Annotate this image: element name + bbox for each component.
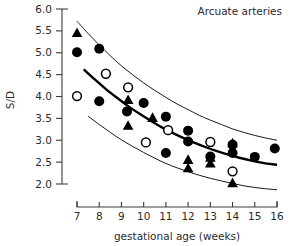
data-point-filled-circle: [94, 96, 104, 106]
data-point-filled-triangle: [147, 112, 158, 122]
data-point-filled-triangle: [183, 154, 194, 164]
data-point-filled-circle: [161, 112, 171, 122]
x-axis-group: 78910111213141516 gestational age (weeks…: [74, 201, 284, 242]
y-tick-label: 5.5: [35, 24, 52, 36]
data-point-filled-circle: [250, 152, 260, 162]
data-point-filled-circle: [270, 144, 280, 154]
x-tick-label: 14: [226, 210, 240, 222]
y-axis-ticks: 2.02.53.03.54.04.55.05.56.0: [35, 3, 62, 190]
data-point-filled-circle: [72, 47, 82, 57]
data-point-open-circle: [228, 167, 237, 176]
x-axis-ticks: 78910111213141516: [74, 202, 284, 222]
arcuate-arteries-scatter-chart: Arcuate arteries 2.02.53.03.54.04.55.05.…: [0, 0, 292, 246]
data-point-filled-triangle: [123, 94, 134, 104]
data-point-open-circle: [73, 92, 82, 101]
data-point-open-circle: [124, 83, 133, 92]
y-tick-label: 4.5: [35, 68, 52, 80]
y-tick-label: 3.5: [35, 112, 52, 124]
y-axis-group: 2.02.53.03.54.04.55.05.56.0 S/D: [4, 3, 68, 190]
y-tick-label: 4.0: [35, 90, 52, 102]
x-tick-label: 8: [96, 210, 103, 222]
data-point-filled-circle: [139, 98, 149, 108]
data-point-filled-circle: [94, 44, 104, 54]
x-axis-label: gestational age (weeks): [114, 230, 240, 242]
data-point-open-circle: [206, 138, 215, 147]
y-axis-label: S/D: [4, 91, 16, 109]
reference-curve: [77, 21, 277, 140]
chart-title: Arcuate arteries: [197, 5, 282, 17]
x-tick-label: 11: [159, 210, 172, 222]
x-axis-line: [77, 201, 277, 207]
reference-curve: [88, 116, 277, 190]
data-point-open-circle: [101, 69, 110, 78]
x-tick-label: 16: [270, 210, 284, 222]
data-point-filled-circle: [228, 148, 238, 158]
data-point-filled-circle: [183, 137, 193, 147]
data-point-filled-circle: [183, 126, 193, 136]
x-tick-label: 13: [204, 210, 217, 222]
reference-curves: [77, 21, 277, 189]
x-tick-label: 12: [181, 210, 194, 222]
y-axis-line: [62, 9, 68, 184]
data-point-filled-triangle: [183, 163, 194, 173]
y-tick-label: 2.5: [35, 156, 52, 168]
y-tick-label: 6.0: [35, 3, 52, 15]
data-point-filled-circle: [161, 148, 171, 158]
x-tick-label: 7: [74, 210, 81, 222]
y-tick-label: 3.0: [35, 134, 52, 146]
y-tick-label: 2.0: [35, 178, 52, 190]
y-tick-label: 5.0: [35, 46, 52, 58]
x-tick-label: 10: [137, 210, 150, 222]
data-point-open-circle: [164, 126, 173, 135]
reference-curve: [84, 69, 277, 164]
data-point-filled-circle: [122, 106, 132, 116]
x-tick-label: 9: [118, 210, 125, 222]
chart-container: Arcuate arteries 2.02.53.03.54.04.55.05.…: [0, 0, 292, 246]
data-point-filled-triangle: [123, 120, 134, 130]
data-point-filled-triangle: [72, 27, 83, 37]
x-tick-label: 15: [248, 210, 261, 222]
data-point-open-circle: [141, 138, 150, 147]
data-points: [72, 27, 280, 187]
chart-title-group: Arcuate arteries: [197, 5, 282, 17]
